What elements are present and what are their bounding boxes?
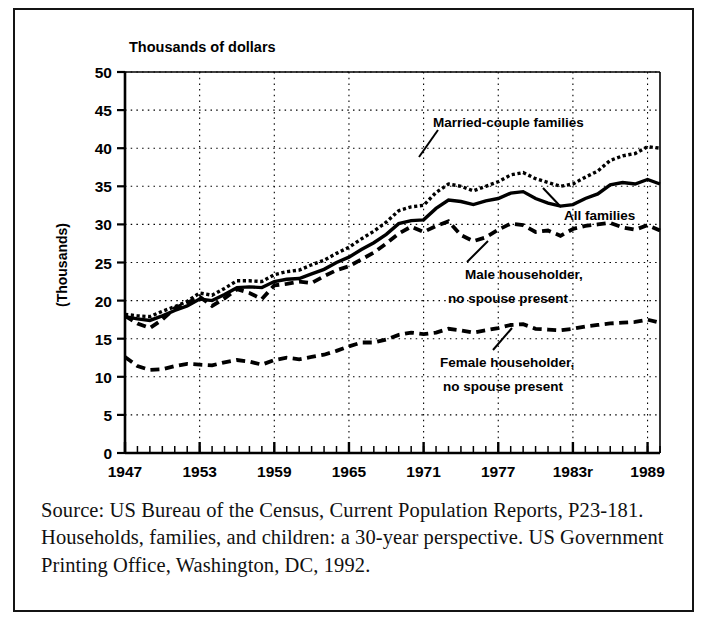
series-label-all-families: All families	[564, 208, 635, 223]
y-tick-label: 15	[95, 331, 113, 348]
series-label-female-line1: Female householder,	[440, 355, 574, 370]
x-tick-label: 1947	[108, 463, 142, 480]
married-leader-line	[419, 130, 438, 157]
y-tick-label: 10	[95, 369, 112, 386]
y-tick-label: 35	[95, 178, 113, 195]
line-chart: 05101520253035404550 1947195319591965197…	[15, 10, 692, 488]
y-tick-label: 50	[95, 64, 112, 81]
x-tick-label: 1971	[406, 463, 441, 480]
y-tick-label: 45	[95, 102, 113, 119]
y-tick-label: 25	[95, 255, 113, 272]
y-tick-label: 40	[95, 140, 112, 157]
x-tick-label: 1959	[257, 463, 292, 480]
x-tick-label: 1965	[332, 463, 367, 480]
series-line	[125, 320, 660, 370]
series-line	[125, 147, 660, 317]
series-label-male-line2: no spouse present	[448, 291, 569, 306]
figure-frame: 05101520253035404550 1947195319591965197…	[13, 8, 694, 612]
series-label-married: Married-couple families	[433, 115, 584, 130]
x-tick-label: 1983r	[553, 463, 594, 480]
y-tick-label: 5	[103, 407, 112, 424]
series-label-male-line1: Male householder,	[465, 267, 583, 282]
x-tick-label: 1989	[630, 463, 665, 480]
y-tick-label: 30	[95, 216, 112, 233]
y-tick-label: 20	[95, 293, 112, 310]
y-axis-ticks: 05101520253035404550	[95, 64, 125, 462]
source-note: Source: US Bureau of the Census, Current…	[41, 497, 666, 579]
series-label-female-line2: no spouse present	[443, 379, 564, 394]
y-axis-label: (Thousands)	[54, 223, 70, 307]
x-tick-label: 1977	[481, 463, 515, 480]
data-series-group	[125, 147, 660, 370]
male-leader-line	[467, 241, 488, 262]
chart-title: Thousands of dollars	[129, 39, 276, 55]
x-tick-label: 1953	[182, 463, 217, 480]
y-tick-label: 0	[103, 445, 112, 462]
chart-area: 05101520253035404550 1947195319591965197…	[15, 10, 692, 488]
